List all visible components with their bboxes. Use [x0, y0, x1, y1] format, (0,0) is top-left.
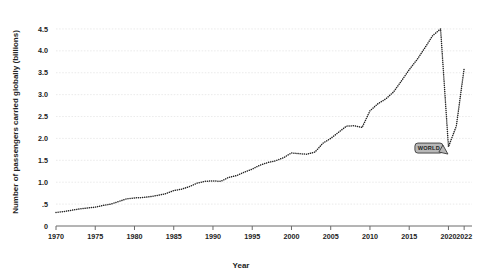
annotation-world-label: WORLD [415, 143, 448, 154]
y-tick-label: 1.0 [38, 178, 48, 187]
gridlines [56, 29, 472, 204]
y-tick-label: 1.5 [38, 156, 48, 165]
y-tick-label: 2.5 [38, 112, 48, 121]
series-line-world [56, 29, 464, 212]
line-chart: 1970197519801985199019952000200520102015… [0, 0, 482, 280]
annotation-label: WORLD [418, 145, 440, 151]
y-axis-title: Number of passengers carried globally (b… [11, 30, 20, 214]
x-axis-ticks: 1970197519801985199019952000200520102015… [48, 226, 472, 241]
y-tick-label: 3.5 [38, 68, 48, 77]
x-tick-label: 2020 [440, 232, 456, 241]
x-tick-label: 1985 [166, 232, 182, 241]
y-tick-label: .5 [42, 200, 48, 209]
x-tick-label: 1990 [205, 232, 221, 241]
x-tick-label: 2010 [362, 232, 378, 241]
chart-container: 1970197519801985199019952000200520102015… [0, 0, 482, 280]
y-axis-ticks: 0.51.01.52.02.53.03.54.04.5 [38, 25, 48, 231]
x-tick-label: 2000 [283, 232, 299, 241]
x-axis-title: Year [233, 261, 250, 270]
x-tick-label: 1995 [244, 232, 260, 241]
y-tick-label: 4.5 [38, 25, 48, 34]
y-tick-label: 0 [44, 222, 48, 231]
x-tick-label: 2022 [456, 232, 472, 241]
y-tick-label: 3.0 [38, 90, 48, 99]
y-tick-label: 4.0 [38, 46, 48, 55]
data-series-world [56, 29, 464, 212]
x-tick-label: 1975 [87, 232, 103, 241]
x-tick-label: 2015 [401, 232, 417, 241]
y-tick-label: 2.0 [38, 134, 48, 143]
x-tick-label: 1980 [126, 232, 142, 241]
x-tick-label: 1970 [48, 232, 64, 241]
x-tick-label: 2005 [323, 232, 339, 241]
